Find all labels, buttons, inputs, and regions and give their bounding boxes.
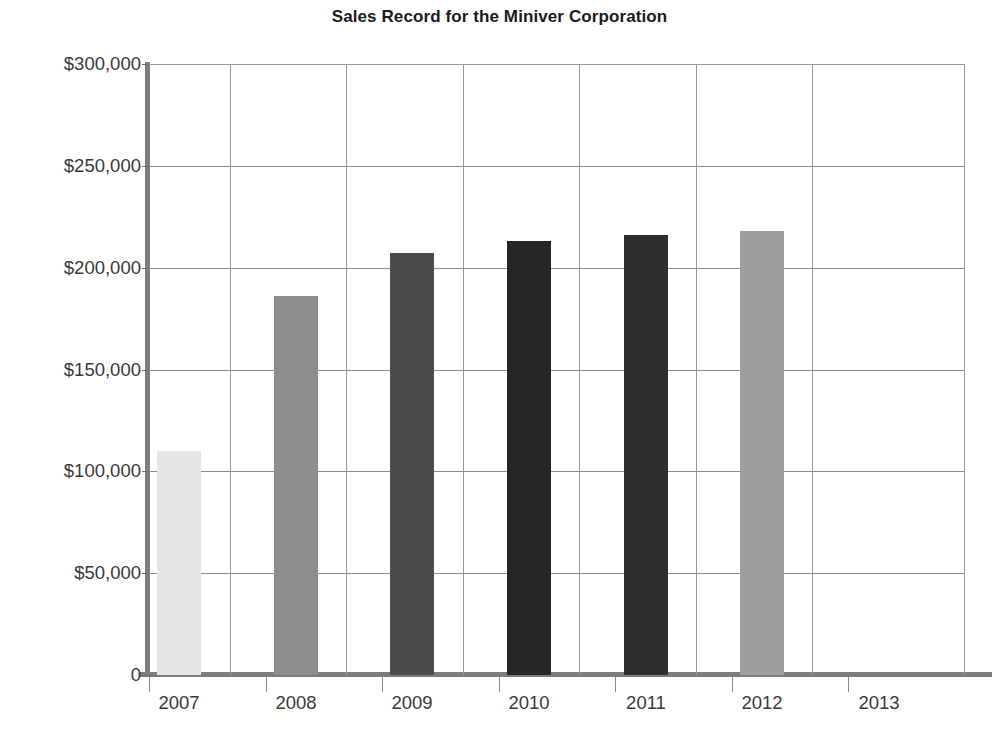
y-axis-tick-label: $250,000 xyxy=(7,155,141,177)
y-axis-tick-label: $150,000 xyxy=(7,359,141,381)
x-axis-tick-label-2011: 2011 xyxy=(606,692,686,714)
x-axis-tick-label-2012: 2012 xyxy=(722,692,802,714)
bar-2008[interactable] xyxy=(274,296,318,675)
gridline-horizontal xyxy=(149,166,965,167)
gridline-vertical xyxy=(230,64,231,675)
bar-chart: Sales Record for the Miniver Corporation… xyxy=(0,0,999,744)
x-axis-tick-mark xyxy=(149,677,150,692)
x-axis-tick-label-2009: 2009 xyxy=(372,692,452,714)
gridline-vertical xyxy=(696,64,697,675)
x-axis-tick-mark xyxy=(499,677,500,692)
x-axis-tick-mark xyxy=(732,677,733,692)
y-axis-tick-label: $50,000 xyxy=(7,562,141,584)
gridline-vertical xyxy=(346,64,347,675)
x-axis-tick-label-2007: 2007 xyxy=(139,692,219,714)
x-axis-tick-mark xyxy=(615,677,616,692)
y-axis-tick-label: $300,000 xyxy=(7,53,141,75)
gridline-vertical xyxy=(579,64,580,675)
chart-title: Sales Record for the Miniver Corporation xyxy=(0,7,999,27)
gridline-horizontal xyxy=(149,370,965,371)
x-axis-tick-mark xyxy=(848,677,849,692)
x-axis-tick-label-2013: 2013 xyxy=(839,692,919,714)
gridline-horizontal xyxy=(149,268,965,269)
gridline-vertical xyxy=(463,64,464,675)
x-axis-tick-mark xyxy=(266,677,267,692)
y-axis-tick-mark xyxy=(142,675,153,676)
bar-2011[interactable] xyxy=(624,235,668,675)
bar-2007[interactable] xyxy=(157,451,201,675)
x-axis-tick-mark xyxy=(382,677,383,692)
y-axis-tick-label: $100,000 xyxy=(7,460,141,482)
gridline-vertical xyxy=(812,64,813,675)
x-axis-tick-label-2010: 2010 xyxy=(489,692,569,714)
y-axis-tick-labels: 0$50,000$100,000$150,000$200,000$250,000… xyxy=(0,0,141,744)
gridline-horizontal xyxy=(149,471,965,472)
y-axis-tick-label: $200,000 xyxy=(7,257,141,279)
bar-2009[interactable] xyxy=(390,253,434,675)
x-axis-tick-label-2008: 2008 xyxy=(256,692,336,714)
gridline-horizontal xyxy=(149,64,965,65)
plot-area xyxy=(149,64,965,675)
gridline-horizontal xyxy=(149,573,965,574)
plot-right-border xyxy=(964,64,965,675)
bar-2012[interactable] xyxy=(740,231,784,675)
bar-2010[interactable] xyxy=(507,241,551,675)
y-axis-tick-label: 0 xyxy=(7,664,141,686)
